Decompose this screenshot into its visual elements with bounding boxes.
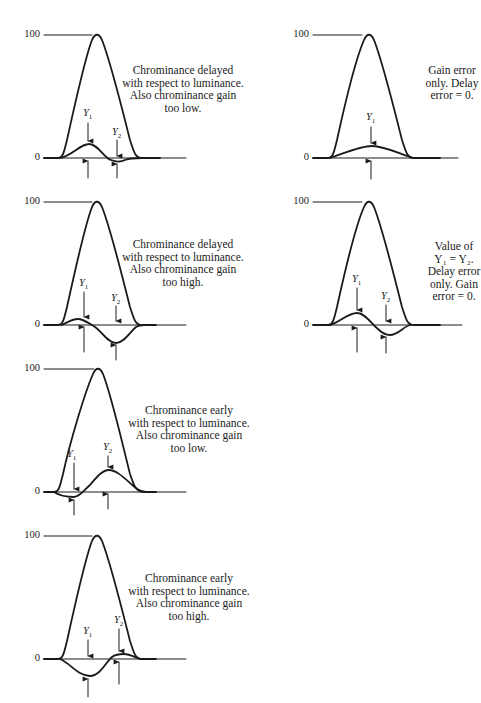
tick-0-p3: 0 xyxy=(18,318,40,329)
tick-0-p2: 0 xyxy=(287,151,309,162)
tick-100-p1: 100 xyxy=(18,28,40,39)
tick-0-p6: 0 xyxy=(18,652,40,663)
y2-label-p3: Y2 xyxy=(111,292,120,306)
caption-p3: Chrominance delayed with respect to lumi… xyxy=(122,238,244,288)
caption-p2: Gain error only. Delay error = 0. xyxy=(424,64,480,102)
tick-100-p6: 100 xyxy=(18,529,40,540)
tick-100-p4: 100 xyxy=(287,195,309,206)
chrominance-error-curve xyxy=(54,470,146,497)
chrominance-error-curve xyxy=(62,319,144,343)
caption-p5: Chrominance early with respect to lumina… xyxy=(128,404,250,454)
tick-100-p5: 100 xyxy=(18,362,40,373)
y1-label-p2: Y1 xyxy=(366,111,375,125)
y1-label-p6: Y1 xyxy=(83,625,92,639)
tick-100-p3: 100 xyxy=(18,195,40,206)
y1-label-p4: Y1 xyxy=(352,273,361,287)
chrominance-error-curve xyxy=(60,144,142,162)
y1-label-p3: Y1 xyxy=(79,277,88,291)
chrominance-error-curve xyxy=(330,313,410,335)
caption-p1: Chrominance delayed with respect to lumi… xyxy=(122,64,244,114)
tick-0-p4: 0 xyxy=(287,318,309,329)
y2-label-p1: Y2 xyxy=(112,126,121,140)
y2-label-p5: Y2 xyxy=(103,441,112,455)
tick-100-p2: 100 xyxy=(287,28,309,39)
tick-0-p5: 0 xyxy=(18,485,40,496)
y1-label-p1: Y1 xyxy=(83,107,92,121)
panel-2 xyxy=(313,35,458,179)
luminance-pulse xyxy=(313,35,440,158)
y2-label-p4: Y2 xyxy=(381,290,390,304)
tick-0-p1: 0 xyxy=(18,151,40,162)
luminance-pulse xyxy=(313,202,440,325)
caption-p6: Chrominance early with respect to lumina… xyxy=(128,572,250,622)
chrominance-error-curve xyxy=(60,654,140,676)
y1-label-p5: Y1 xyxy=(67,448,76,462)
caption-p4: Value of Y₁ = Y₂. Delay error only. Gain… xyxy=(426,240,481,303)
chrominance-error-curve xyxy=(330,146,413,158)
y2-label-p6: Y2 xyxy=(114,614,123,628)
